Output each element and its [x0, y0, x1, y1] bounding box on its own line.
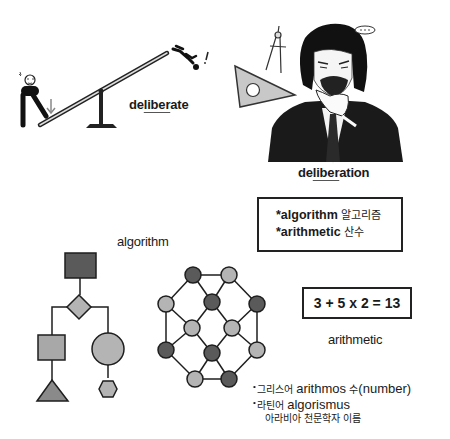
etymology-notes: •그리스어 arithmos 수(number) •라틴어 algorismus… [253, 380, 411, 425]
falling-person-icon [173, 46, 199, 70]
graph-node [249, 342, 265, 358]
term-kr: 산수 [344, 226, 364, 239]
flowchart-triangle [37, 380, 68, 401]
graph-node [158, 296, 174, 312]
graph-node [221, 371, 237, 387]
graph-node [204, 345, 220, 361]
term-arithmetic: *arithmetic산수 [276, 224, 401, 241]
term-kr: 알고리즘 [341, 209, 381, 222]
word-prefix: de [298, 165, 313, 180]
down-arrow-icon [47, 99, 55, 113]
etymology-greek: •그리스어 arithmos 수(number) [253, 380, 411, 396]
flowchart-hexagon [99, 381, 117, 397]
term-en: *algorithm [276, 208, 338, 222]
etymology-latin: •라틴어 algorismus [253, 396, 411, 412]
speech-bubble-icon [355, 26, 375, 34]
word-root: liber [313, 165, 339, 180]
term-algorithm: *algorithm알고리즘 [276, 207, 401, 224]
seesaw-icon [40, 53, 167, 128]
root-word: algorismus [287, 397, 350, 412]
graph-node [184, 320, 200, 336]
term-en: *arithmetic [276, 225, 341, 239]
graph-node [224, 320, 240, 336]
meaning-kr: 수 [349, 384, 358, 395]
flowchart-start-square [65, 253, 96, 278]
lang-label: 그리스어 [257, 384, 293, 395]
deliberation-label: deliberation [298, 165, 369, 180]
flowchart-diagram [37, 253, 124, 401]
word-suffix: ate [170, 97, 188, 112]
equation-box: 3 + 5 x 2 = 13 [302, 287, 412, 319]
graph-node [187, 371, 203, 387]
terms-box: *algorithm알고리즘 *arithmetic산수 [257, 197, 403, 252]
root-word: arithmos [296, 381, 346, 396]
graph-node [249, 296, 265, 312]
bullet-icon: • [253, 398, 256, 407]
flowchart-decision-diamond [67, 295, 91, 319]
word-prefix: de [129, 97, 144, 112]
compass-icon [266, 26, 286, 73]
meaning-en: (number) [358, 381, 411, 396]
etymology-note: 아라비아 천문학자 이름 [253, 412, 411, 425]
graph-node [221, 267, 237, 283]
flowchart-circle [92, 333, 124, 365]
flowchart-process-square [38, 335, 65, 360]
set-square-icon [235, 66, 295, 107]
lang-label: 라틴어 [257, 400, 284, 411]
network-graph [158, 267, 265, 387]
deliberate-label: deliberate [129, 97, 188, 112]
word-root: liber [144, 97, 170, 112]
algorithm-label: algorithm [117, 234, 169, 249]
word-suffix: ation [339, 165, 369, 180]
graph-node [204, 294, 220, 310]
arithmetic-label: arithmetic [328, 332, 382, 347]
bullet-icon: • [253, 382, 256, 391]
graph-node [185, 267, 201, 283]
graph-node [158, 342, 174, 358]
exclamation-icon [204, 52, 208, 64]
standing-person-icon [19, 72, 46, 125]
